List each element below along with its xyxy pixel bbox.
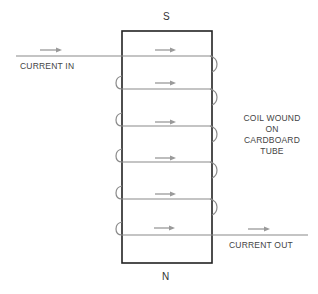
coil-description: COIL WOUND ON CARDBOARD TUBE — [237, 113, 307, 157]
right-loop-2 — [210, 89, 217, 105]
right-loop-1 — [210, 56, 217, 72]
arrow-right-icon — [40, 48, 62, 53]
left-loop-3 — [116, 149, 122, 162]
arrow-right-icon — [155, 156, 176, 161]
left-loop-5 — [116, 222, 122, 235]
coil-note-line-2: ON — [237, 124, 307, 135]
current-out-label: CURRENT OUT — [229, 241, 293, 250]
pole-label-south: S — [163, 12, 170, 22]
left-loop-1 — [116, 76, 122, 89]
arrow-right-icon — [248, 227, 270, 232]
arrow-right-icon — [154, 226, 175, 231]
coil-note-line-3: CARDBOARD — [237, 135, 307, 146]
coil-note-line-4: TUBE — [237, 146, 307, 157]
current-in-label: CURRENT IN — [20, 62, 74, 71]
arrow-right-icon — [155, 81, 176, 86]
coil-note-line-1: COIL WOUND — [237, 113, 307, 124]
right-loop-3 — [210, 126, 217, 142]
arrow-right-icon — [155, 48, 176, 53]
left-loop-2 — [116, 113, 122, 126]
right-loop-5 — [210, 199, 217, 215]
current-direction-arrows — [40, 48, 270, 232]
right-loop-4 — [210, 162, 217, 178]
pole-label-north: N — [162, 272, 169, 282]
arrow-right-icon — [155, 120, 176, 125]
left-loop-4 — [116, 186, 122, 199]
arrow-right-icon — [155, 192, 176, 197]
